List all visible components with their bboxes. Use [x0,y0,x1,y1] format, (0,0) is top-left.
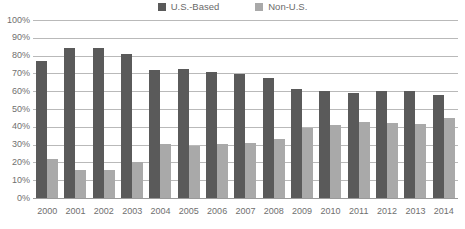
bar-non-us[interactable] [189,146,200,199]
x-tick-label: 2000 [33,202,61,220]
bar-us-based[interactable] [433,95,444,198]
legend-swatch-non-us [255,3,263,11]
x-axis: 2000200120022003200420052006200720082009… [33,202,458,220]
bar-groups [33,20,458,198]
x-tick-label: 2005 [175,202,203,220]
bar-us-based[interactable] [149,70,160,198]
bar-group [175,20,203,198]
bar-group [316,20,344,198]
bar-non-us[interactable] [415,124,426,198]
bar-group [430,20,458,198]
x-tick-label: 2002 [90,202,118,220]
bar-us-based[interactable] [93,48,104,198]
x-tick-label: 2010 [316,202,344,220]
bar-us-based[interactable] [178,69,189,198]
bar-non-us[interactable] [217,144,228,198]
bar-us-based[interactable] [121,54,132,198]
bar-group [401,20,429,198]
bar-non-us[interactable] [330,125,341,198]
chart-legend: U.S.-Based Non-U.S. [0,0,465,14]
y-tick-label: 90% [0,33,30,42]
x-tick-label: 2004 [146,202,174,220]
y-axis: 100%90%80%70%60%50%40%30%20%10%0% [0,20,30,198]
bar-us-based[interactable] [263,78,274,198]
legend-item-non-us[interactable]: Non-U.S. [255,2,307,12]
legend-item-us-based[interactable]: U.S.-Based [158,2,220,12]
y-tick-label: 80% [0,51,30,60]
bar-non-us[interactable] [132,162,143,198]
bar-group [373,20,401,198]
bar-non-us[interactable] [160,144,171,198]
plot-area [33,20,458,198]
bar-us-based[interactable] [376,91,387,198]
gridline-0 [33,198,458,199]
bar-group [61,20,89,198]
x-tick-label: 2011 [345,202,373,220]
bar-us-based[interactable] [404,91,415,198]
bar-group [288,20,316,198]
bar-group [231,20,259,198]
bar-us-based[interactable] [206,72,217,198]
x-tick-label: 2009 [288,202,316,220]
y-tick-label: 40% [0,122,30,131]
bar-non-us[interactable] [274,139,285,198]
y-tick-label: 20% [0,158,30,167]
bar-us-based[interactable] [291,89,302,198]
x-tick-label: 2012 [373,202,401,220]
bar-non-us[interactable] [245,143,256,198]
bar-non-us[interactable] [47,159,58,198]
y-tick-label: 50% [0,105,30,114]
bar-group [260,20,288,198]
x-tick-label: 2008 [260,202,288,220]
legend-label-us-based: U.S.-Based [171,2,220,12]
bar-non-us[interactable] [444,118,455,198]
bar-non-us[interactable] [104,170,115,198]
x-tick-label: 2003 [118,202,146,220]
bar-non-us[interactable] [387,123,398,198]
y-tick-label: 70% [0,69,30,78]
bar-group [118,20,146,198]
x-tick-label: 2007 [231,202,259,220]
bar-group [33,20,61,198]
x-tick-label: 2013 [401,202,429,220]
bar-group [90,20,118,198]
y-tick-label: 10% [0,176,30,185]
bar-group [345,20,373,198]
x-tick-label: 2001 [61,202,89,220]
bar-chart: U.S.-Based Non-U.S. 100%90%80%70%60%50%4… [0,0,465,229]
y-tick-label: 30% [0,140,30,149]
bar-us-based[interactable] [348,93,359,198]
bar-group [203,20,231,198]
bar-non-us[interactable] [75,170,86,198]
legend-label-non-us: Non-U.S. [268,2,307,12]
y-tick-label: 0% [0,194,30,203]
bar-group [146,20,174,198]
x-tick-label: 2006 [203,202,231,220]
bar-non-us[interactable] [302,128,313,198]
legend-swatch-us-based [158,3,166,11]
bar-us-based[interactable] [64,48,75,198]
y-tick-label: 100% [0,16,30,25]
x-tick-label: 2014 [430,202,458,220]
bar-us-based[interactable] [234,74,245,198]
bar-us-based[interactable] [319,91,330,198]
y-tick-label: 60% [0,87,30,96]
bar-non-us[interactable] [359,122,370,198]
bar-us-based[interactable] [36,61,47,198]
